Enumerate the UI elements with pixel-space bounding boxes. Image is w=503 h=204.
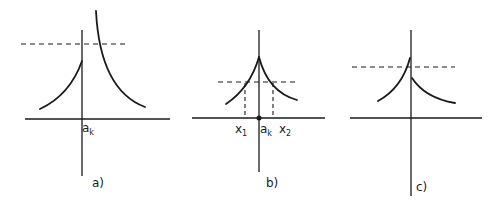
panel-a-right-branch bbox=[96, 11, 145, 107]
panel-a-caption: a) bbox=[92, 176, 104, 190]
panel-c-caption: c) bbox=[416, 180, 427, 194]
panel-a-left-branch bbox=[40, 61, 82, 109]
panel-c: c) bbox=[350, 30, 482, 196]
panel-b-right-branch bbox=[259, 57, 297, 100]
panel-c-left-branch bbox=[378, 58, 410, 101]
panel-b-x2-label: x2 bbox=[279, 122, 291, 138]
figure-three-panels: ak a) x1 ak x2 b) c) bbox=[0, 0, 503, 204]
panel-a-ak-label: ak bbox=[82, 121, 94, 137]
panel-a: ak a) bbox=[21, 11, 170, 190]
panel-c-right-branch bbox=[412, 78, 455, 103]
panel-b-ak-point bbox=[257, 116, 262, 121]
panel-b: x1 ak x2 b) bbox=[192, 30, 325, 190]
panel-b-x1-label: x1 bbox=[235, 122, 247, 138]
panel-b-left-branch bbox=[226, 57, 259, 104]
panel-b-caption: b) bbox=[266, 176, 278, 190]
panel-b-ak-label: ak bbox=[260, 122, 272, 138]
